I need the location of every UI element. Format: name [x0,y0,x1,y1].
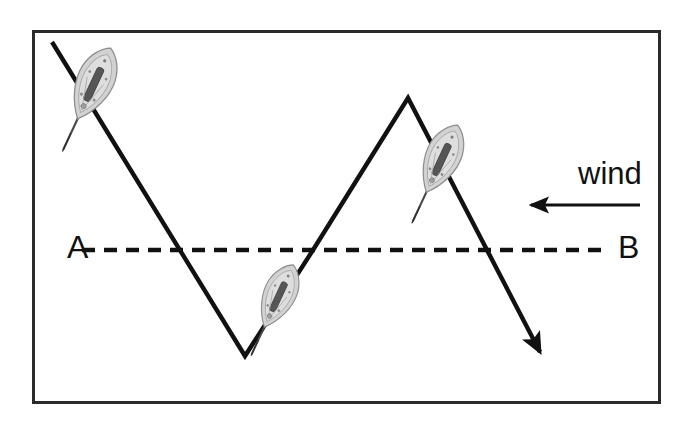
label-point-a: A [67,229,89,265]
diagram-border [34,32,660,403]
sailing-tacking-diagram: A B wind [0,0,680,425]
label-wind: wind [577,156,642,191]
label-point-b: B [618,229,639,265]
diagram-canvas: A B wind [0,0,680,425]
